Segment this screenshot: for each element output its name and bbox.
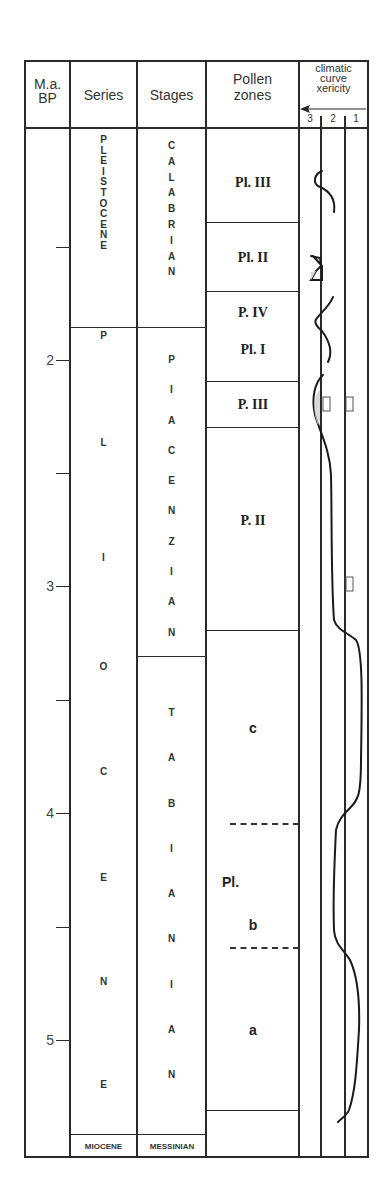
letter: N: [138, 916, 205, 961]
letter: P: [138, 345, 205, 375]
tick-minor: [56, 247, 69, 248]
tick-3: [56, 586, 69, 587]
letter: I: [138, 233, 205, 249]
tick-minor: [56, 473, 69, 474]
climatic-sep-2-1: [344, 116, 346, 1158]
letter: I: [138, 375, 205, 405]
header-pollen-line1: Pollen: [207, 72, 298, 86]
letter: C: [138, 436, 205, 466]
scale-2: 2: [323, 114, 343, 124]
letter: N: [71, 976, 136, 987]
letter: N: [138, 496, 205, 526]
letter: T: [138, 690, 205, 735]
zone-divider: [207, 1110, 299, 1111]
series-divider-pleistocene-pliocene: [71, 327, 207, 328]
stage-tabianian: T A B I A N I A N: [138, 690, 205, 1098]
zone-divider-dashed: [230, 947, 299, 949]
age-label-5: 5: [34, 1032, 54, 1048]
marker-box: [323, 397, 330, 411]
tick-2: [56, 360, 69, 361]
letter: B: [138, 201, 205, 217]
letter: B: [138, 781, 205, 826]
series-miocene: MIOCENE: [71, 1142, 136, 1151]
header-ma-line2: BP: [26, 91, 69, 105]
zone-p-ii: P. II: [207, 513, 299, 529]
col-sep-stages-pollen: [205, 60, 207, 1158]
letter: I: [138, 962, 205, 1007]
letter: I: [138, 826, 205, 871]
letter: L: [138, 170, 205, 186]
tick-minor: [56, 927, 69, 928]
marker-box: [346, 577, 353, 591]
letter: A: [138, 154, 205, 170]
table-border-bottom: [24, 1156, 369, 1158]
tick-4: [56, 813, 69, 814]
table-border-left: [24, 60, 26, 1158]
letter: I: [138, 557, 205, 587]
zone-divider: [207, 630, 299, 631]
zone-pl: Pl.: [222, 874, 262, 890]
letter: A: [138, 735, 205, 780]
letter: L: [71, 437, 136, 448]
col-sep-pollen-climatic: [298, 60, 300, 1158]
zone-c: c: [207, 720, 299, 736]
stage-divider-piacenzian-tabianian: [138, 656, 206, 657]
zone-divider: [207, 291, 299, 292]
stage-messinian: MESSINIAN: [138, 1142, 206, 1151]
age-label-2: 2: [34, 352, 54, 368]
zone-b: b: [207, 917, 299, 933]
letter: E: [71, 872, 136, 883]
header-stages: Stages: [138, 88, 205, 102]
letter: A: [138, 1007, 205, 1052]
zone-divider-dashed: [230, 823, 299, 825]
letter: N: [138, 1052, 205, 1097]
letter: E: [138, 466, 205, 496]
letter: A: [138, 871, 205, 916]
series-pleistocene: P L E I S T O C E N E: [71, 135, 136, 252]
zone-p-iv: P. IV: [207, 305, 299, 321]
age-label-3: 3: [34, 578, 54, 594]
zone-pl-ii: Pl. II: [207, 250, 299, 266]
zone-divider: [207, 427, 299, 428]
zone-pl-iii: Pl. III: [207, 175, 299, 191]
letter: E: [71, 241, 136, 252]
letter: Z: [138, 527, 205, 557]
climatic-sep-3-2: [320, 116, 322, 1158]
header-climatic-line3: xericity: [300, 83, 367, 93]
tick-minor: [56, 700, 69, 701]
zone-a: a: [207, 1022, 299, 1038]
table-border-right: [367, 60, 369, 1158]
letter: P: [71, 330, 136, 341]
zone-pl-i: Pl. I: [207, 342, 299, 358]
header-ma: M.a. BP: [26, 77, 69, 105]
header-series: Series: [71, 88, 136, 102]
letter: R: [138, 217, 205, 233]
zone-p-iii: P. III: [207, 397, 299, 413]
letter: C: [71, 766, 136, 777]
stage-calabrian: C A L A B R I A N: [138, 138, 205, 280]
letter: N: [138, 618, 205, 648]
letter: A: [138, 185, 205, 201]
header-climatic-curve: climatic curve xericity: [300, 63, 367, 93]
letter: T: [71, 188, 136, 199]
header-pollen-zones: Pollen zones: [207, 72, 298, 102]
letter: A: [138, 249, 205, 265]
letter: I: [71, 552, 136, 563]
letter: E: [71, 1079, 136, 1090]
zone-divider: [207, 222, 299, 223]
scale-1: 1: [347, 114, 365, 124]
letter: A: [138, 587, 205, 617]
stage-piacenzian: P I A C E N Z I A N: [138, 345, 205, 648]
letter: O: [71, 661, 136, 672]
header-divider: [24, 127, 369, 129]
age-label-4: 4: [34, 805, 54, 821]
scale-3: 3: [301, 114, 319, 124]
tick-5: [56, 1040, 69, 1041]
zone-divider: [207, 381, 299, 382]
letter: C: [138, 138, 205, 154]
header-pollen-line2: zones: [207, 88, 298, 102]
letter: N: [138, 264, 205, 280]
marker-box: [346, 397, 353, 411]
header-ma-line1: M.a.: [26, 77, 69, 91]
series-divider-miocene: [71, 1134, 207, 1135]
